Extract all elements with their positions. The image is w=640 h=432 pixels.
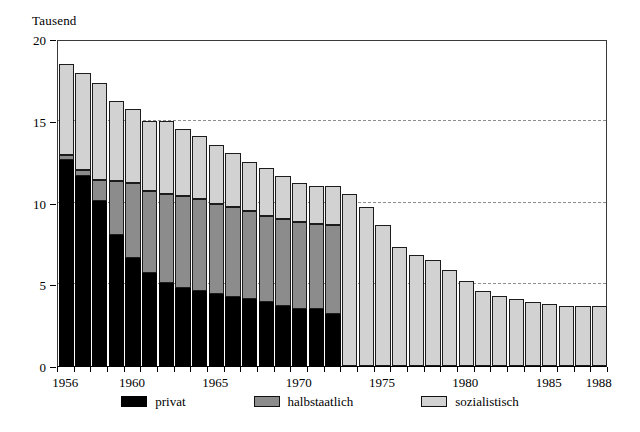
x-axis-tick-label-1965: 1965 bbox=[202, 376, 228, 389]
bar-segment-sozialistisch-1978 bbox=[425, 260, 440, 366]
x-axis-tick-label-1956: 1956 bbox=[52, 376, 78, 389]
bar-segment-sozialistisch-1968 bbox=[259, 168, 274, 215]
bar-segment-privat-1972 bbox=[325, 314, 340, 366]
bar-1959 bbox=[109, 101, 124, 366]
x-axis-tick-mark bbox=[324, 367, 325, 372]
bar-segment-sozialistisch-1984 bbox=[525, 302, 540, 366]
legend-label-privat: privat bbox=[155, 395, 185, 408]
bar-segment-sozialistisch-1960 bbox=[125, 109, 140, 183]
bar-segment-privat-1960 bbox=[125, 258, 140, 366]
bar-1969 bbox=[275, 176, 290, 366]
bar-segment-privat-1965 bbox=[209, 294, 224, 366]
bar-segment-halbstaatlich-1965 bbox=[209, 204, 224, 294]
legend-item-privat[interactable]: privat bbox=[121, 395, 185, 408]
x-axis-tick-mark bbox=[524, 367, 525, 372]
bar-segment-sozialistisch-1980 bbox=[459, 281, 474, 366]
bar-segment-sozialistisch-1986 bbox=[559, 306, 574, 366]
bar-segment-halbstaatlich-1963 bbox=[175, 196, 190, 288]
bar-1983 bbox=[509, 299, 524, 366]
bar-segment-sozialistisch-1981 bbox=[475, 291, 490, 366]
chart-legend: privathalbstaatlichsozialistisch bbox=[0, 390, 640, 412]
bar-segment-sozialistisch-1975 bbox=[375, 225, 390, 366]
bar-1971 bbox=[309, 186, 324, 366]
bar-segment-sozialistisch-1979 bbox=[442, 270, 457, 366]
bar-1975 bbox=[375, 225, 390, 366]
legend-label-halbstaatlich: halbstaatlich bbox=[288, 395, 354, 408]
legend-label-sozialistisch: sozialistisch bbox=[455, 395, 519, 408]
bar-1957 bbox=[75, 73, 90, 366]
y-axis: 05101520 bbox=[0, 0, 57, 380]
bar-segment-halbstaatlich-1960 bbox=[125, 183, 140, 258]
x-axis-tick-mark bbox=[240, 367, 241, 372]
bar-segment-privat-1969 bbox=[275, 306, 290, 366]
x-axis-tick-mark bbox=[440, 367, 441, 372]
x-axis-tick-label-1975: 1975 bbox=[369, 376, 395, 389]
bar-segment-halbstaatlich-1958 bbox=[92, 180, 107, 201]
bar-1980 bbox=[459, 281, 474, 366]
legend-item-sozialistisch[interactable]: sozialistisch bbox=[421, 395, 519, 408]
x-axis-tick-mark bbox=[57, 367, 58, 372]
bar-segment-privat-1962 bbox=[159, 283, 174, 366]
legend-item-halbstaatlich[interactable]: halbstaatlich bbox=[254, 395, 354, 408]
y-axis-tick-mark-5 bbox=[50, 285, 56, 286]
bar-series-group bbox=[58, 41, 606, 366]
bar-1977 bbox=[409, 255, 424, 366]
bar-1986 bbox=[559, 306, 574, 366]
x-axis-tick-mark bbox=[590, 367, 591, 372]
x-axis-tick-label-1980: 1980 bbox=[452, 376, 478, 389]
legend-swatch-privat bbox=[121, 396, 147, 407]
bar-segment-halbstaatlich-1961 bbox=[142, 191, 157, 273]
x-axis-tick-mark bbox=[457, 367, 458, 372]
y-axis-tick-mark-15 bbox=[50, 122, 56, 123]
y-axis-tick-label-10: 10 bbox=[33, 198, 46, 211]
bar-segment-sozialistisch-1959 bbox=[109, 101, 124, 181]
bar-segment-privat-1968 bbox=[259, 302, 274, 366]
bar-1987 bbox=[575, 306, 590, 366]
x-axis-tick-mark bbox=[357, 367, 358, 372]
bar-segment-privat-1971 bbox=[309, 309, 324, 366]
bar-segment-sozialistisch-1964 bbox=[192, 136, 207, 200]
x-axis-tick-mark bbox=[124, 367, 125, 372]
bar-segment-halbstaatlich-1969 bbox=[275, 219, 290, 306]
bar-segment-sozialistisch-1988 bbox=[592, 306, 607, 366]
bar-segment-sozialistisch-1967 bbox=[242, 162, 257, 211]
bar-1961 bbox=[142, 121, 157, 366]
bar-segment-sozialistisch-1956 bbox=[59, 64, 74, 156]
bar-1966 bbox=[225, 153, 240, 366]
x-axis-tick-mark bbox=[507, 367, 508, 372]
bar-1982 bbox=[492, 296, 507, 366]
bar-segment-sozialistisch-1971 bbox=[309, 186, 324, 224]
x-axis-tick-mark bbox=[474, 367, 475, 372]
bar-1960 bbox=[125, 109, 140, 366]
bar-segment-privat-1956 bbox=[59, 160, 74, 366]
y-axis-tick-label-15: 15 bbox=[33, 116, 46, 129]
bar-segment-sozialistisch-1958 bbox=[92, 83, 107, 179]
bar-1968 bbox=[259, 168, 274, 366]
bar-segment-sozialistisch-1963 bbox=[175, 129, 190, 196]
plot-area bbox=[57, 40, 607, 367]
x-axis-tick-mark bbox=[224, 367, 225, 372]
x-axis-tick-label-1970: 1970 bbox=[286, 376, 312, 389]
bar-segment-sozialistisch-1985 bbox=[542, 304, 557, 366]
legend-swatch-halbstaatlich bbox=[254, 396, 280, 407]
bar-segment-privat-1963 bbox=[175, 288, 190, 366]
bar-segment-halbstaatlich-1971 bbox=[309, 224, 324, 309]
legend-swatch-sozialistisch bbox=[421, 396, 447, 407]
bar-1979 bbox=[442, 270, 457, 366]
bar-segment-halbstaatlich-1962 bbox=[159, 194, 174, 282]
bar-segment-sozialistisch-1966 bbox=[225, 153, 240, 207]
bar-segment-halbstaatlich-1964 bbox=[192, 199, 207, 291]
bar-segment-halbstaatlich-1959 bbox=[109, 181, 124, 235]
x-axis-tick-mark bbox=[257, 367, 258, 372]
x-axis-tick-mark bbox=[274, 367, 275, 372]
bar-1972 bbox=[325, 186, 340, 366]
bar-segment-privat-1957 bbox=[75, 176, 90, 366]
x-axis-tick-mark bbox=[607, 367, 608, 372]
bar-segment-sozialistisch-1962 bbox=[159, 121, 174, 195]
bar-1965 bbox=[209, 145, 224, 366]
bar-1981 bbox=[475, 291, 490, 366]
x-axis-tick-mark bbox=[307, 367, 308, 372]
bar-1974 bbox=[359, 207, 374, 366]
bar-segment-sozialistisch-1972 bbox=[325, 186, 340, 225]
x-axis-tick-mark bbox=[107, 367, 108, 372]
